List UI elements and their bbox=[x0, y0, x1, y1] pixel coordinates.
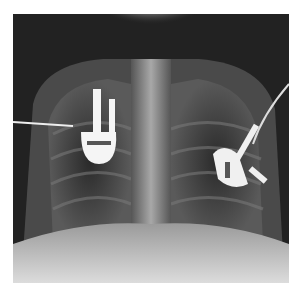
xray-image bbox=[13, 14, 289, 283]
chest-xray-graphic bbox=[13, 14, 289, 283]
